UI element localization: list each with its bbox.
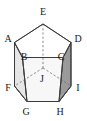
vertex-label-j: J xyxy=(36,74,48,84)
vertex-label-a: A xyxy=(2,34,14,44)
vertex-label-g: G xyxy=(20,107,32,117)
figure-canvas: A B C D E F G H I J xyxy=(0,0,87,121)
pentagonal-prism-svg xyxy=(0,0,87,121)
vertex-label-d: D xyxy=(72,34,84,44)
vertex-label-h: H xyxy=(54,107,66,117)
vertex-label-i: I xyxy=(72,83,84,93)
vertex-label-b: B xyxy=(18,52,30,62)
vertex-label-e: E xyxy=(37,7,49,17)
vertex-label-f: F xyxy=(2,83,14,93)
vertex-label-c: C xyxy=(55,52,67,62)
